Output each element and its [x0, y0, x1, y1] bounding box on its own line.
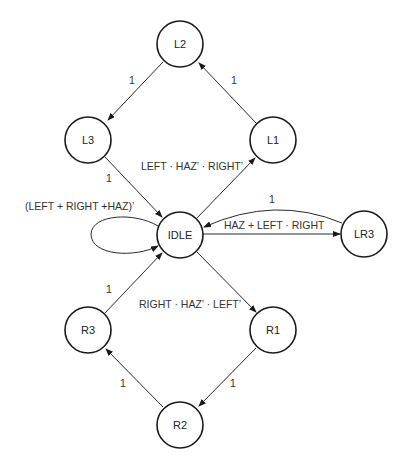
state-label-r1: R1	[266, 324, 280, 336]
state-label-l2: L2	[174, 38, 186, 50]
edge-label-r3-idle: 1	[106, 283, 112, 295]
state-node-idle: IDLE	[157, 212, 203, 258]
state-node-lr3: LR3	[341, 211, 387, 257]
edge-label-idle-r1: RIGHT · HAZ’ · LEFT’	[139, 298, 241, 310]
edge-label-l1-l2: 1	[231, 74, 237, 86]
edge-label-l3-idle: 1	[106, 172, 112, 184]
state-node-r1: R1	[250, 307, 296, 353]
state-node-l1: L1	[250, 117, 296, 163]
state-node-l2: L2	[157, 21, 203, 67]
state-label-lr3: LR3	[354, 228, 374, 240]
edge-label-lr3-idle: 1	[269, 193, 275, 205]
state-node-r3: R3	[65, 307, 111, 353]
edge-label-l2-l3: 1	[129, 74, 135, 86]
edge-l1-to-l2	[199, 63, 257, 124]
edge-r1-to-r2	[199, 348, 256, 406]
state-node-r2: R2	[157, 402, 203, 448]
state-label-r3: R3	[81, 324, 95, 336]
edge-label-idle-lr3: HAZ + LEFT · RIGHT	[224, 219, 325, 231]
edge-label-r1-r2: 1	[230, 377, 236, 389]
state-label-l3: L3	[82, 134, 94, 146]
edge-idle-self-loop	[91, 217, 158, 253]
state-node-l3: L3	[65, 117, 111, 163]
edge-label-idle-l1: LEFT · HAZ’ · RIGHT’	[141, 160, 243, 172]
state-label-l1: L1	[267, 134, 279, 146]
edge-r2-to-r3	[106, 349, 163, 407]
edge-l2-to-l3	[108, 62, 163, 120]
state-label-r2: R2	[173, 419, 187, 431]
state-label-idle: IDLE	[168, 229, 192, 241]
state-diagram: 1 1 1 LEFT · HAZ’ · RIGHT’ (LEFT + RIGHT…	[0, 0, 403, 470]
edge-label-idle-self: (LEFT + RIGHT +HAZ)’	[25, 200, 134, 212]
edge-label-r2-r3: 1	[120, 377, 126, 389]
